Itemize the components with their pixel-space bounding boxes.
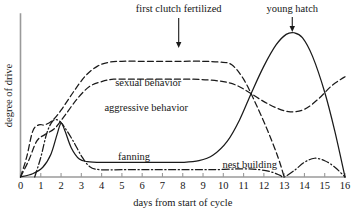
- x-tick-label: 11: [239, 180, 249, 191]
- annotation-young-hatch: young hatch: [266, 3, 318, 14]
- x-tick-label: 5: [119, 180, 124, 191]
- series-label-nest-building: nest building: [222, 159, 277, 170]
- series-label-aggressive-behavior: aggressive behavior: [104, 102, 188, 113]
- series-label-fanning: fanning: [118, 151, 151, 162]
- x-tick-label: 0: [18, 180, 23, 191]
- x-tick-label: 7: [160, 180, 165, 191]
- chart-annotations: first clutch fertilizedyoung hatch: [136, 3, 319, 48]
- y-axis-title: degree of drive: [3, 63, 14, 127]
- x-tick-label: 1: [38, 180, 43, 191]
- chart-svg: 012345678910111213141516days from start …: [0, 0, 360, 218]
- x-tick-label: 14: [299, 180, 310, 191]
- series-label-sexual-behavior: sexual behavior: [115, 77, 182, 88]
- series-line-nest-building: [35, 120, 345, 178]
- x-tick-label: 2: [58, 180, 63, 191]
- x-axis-title: days from start of cycle: [133, 197, 232, 208]
- x-tick-label: 15: [319, 180, 330, 191]
- x-tick-label: 6: [140, 180, 145, 191]
- down-arrow-icon: [290, 26, 295, 32]
- x-tick-label: 12: [259, 180, 270, 191]
- chart-figure: 012345678910111213141516days from start …: [0, 0, 360, 218]
- x-tick-label: 16: [340, 180, 351, 191]
- x-tick-label: 13: [279, 180, 290, 191]
- x-tick-label: 3: [79, 180, 84, 191]
- down-arrow-icon: [176, 42, 181, 48]
- x-tick-label: 9: [200, 180, 205, 191]
- x-tick-label: 10: [218, 180, 229, 191]
- annotation-first-clutch-fertilized: first clutch fertilized: [136, 3, 222, 14]
- x-tick-label: 8: [180, 180, 185, 191]
- x-tick-label: 4: [99, 180, 105, 191]
- axis-lines: [21, 14, 346, 177]
